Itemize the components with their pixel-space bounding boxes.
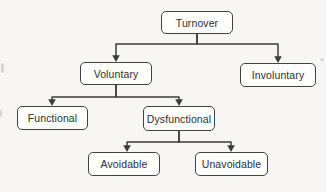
node-avoidable: Avoidable: [88, 152, 160, 176]
turnover-tree-diagram: Turnover Voluntary Involuntary Functiona…: [0, 0, 326, 192]
node-functional: Functional: [17, 106, 88, 130]
scan-speckle: [0, 110, 2, 117]
node-involuntary: Involuntary: [240, 63, 316, 87]
edge-dysfunctional-unavoidable: [179, 131, 231, 146]
scan-speckle: [320, 58, 324, 61]
node-unavoidable: Unavoidable: [195, 152, 268, 176]
arrowhead-functional: [48, 99, 56, 106]
scan-speckle: [1, 63, 4, 73]
edge-voluntary-functional: [52, 85, 116, 100]
edge-voluntary-dysfunctional: [116, 85, 179, 100]
arrowhead-unavoidable: [227, 145, 235, 152]
arrowhead-involuntary: [274, 56, 282, 63]
arrowhead-dysfunctional: [175, 99, 183, 106]
node-voluntary: Voluntary: [80, 62, 152, 85]
node-dysfunctional: Dysfunctional: [143, 106, 215, 131]
arrowhead-voluntary: [112, 55, 120, 62]
edge-dysfunctional-avoidable: [127, 131, 179, 146]
edge-turnover-involuntary: [197, 34, 278, 57]
node-turnover: Turnover: [161, 11, 233, 34]
edge-turnover-voluntary: [116, 34, 197, 56]
arrowhead-avoidable: [123, 145, 131, 152]
